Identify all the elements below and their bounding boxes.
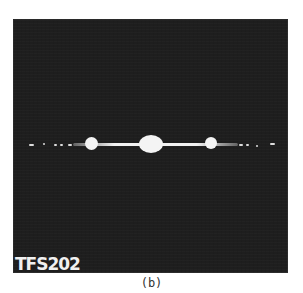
diffraction-photo: TFS202 [13,19,288,273]
fringe-dot [270,143,275,145]
fringe-dot [239,144,243,146]
figure-caption: (b) [0,276,303,290]
fringe-dot [60,144,63,146]
fringe-dot [54,144,57,146]
specimen-label: TFS202 [15,256,80,273]
fringe-dot [29,144,34,146]
fringe-dot [246,144,249,146]
right-order-spot [205,137,217,149]
central-order-spot [139,135,163,153]
fringe-dot [43,143,45,145]
left-order-spot [85,137,98,150]
fringe-dot [68,144,72,146]
fringe-dot [256,145,258,147]
